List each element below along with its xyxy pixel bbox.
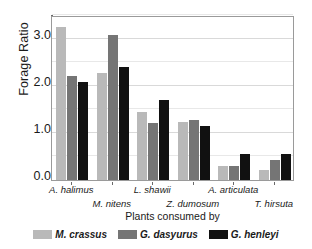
y-tick-label: 2.0 (17, 77, 51, 87)
x-tick-label: A. articulata (208, 184, 258, 195)
legend-swatch-icon (209, 230, 228, 239)
chart-legend: M. crassusG. dasyurusG. henleyi (0, 229, 312, 240)
bar (189, 120, 199, 180)
bar (108, 35, 118, 180)
x-axis-title: Plants consumed by (51, 210, 294, 222)
legend-item: G. dasyurus (118, 229, 198, 240)
bar-group (93, 17, 134, 180)
x-tick-mark (112, 182, 113, 185)
y-tick-label: 1.0 (17, 124, 51, 134)
bar (178, 122, 188, 180)
x-tick-label: M. nitens (92, 198, 131, 209)
x-tick-label: A. halimus (49, 184, 93, 195)
legend-swatch-icon (118, 230, 137, 239)
bar (119, 67, 129, 180)
bar (56, 27, 66, 180)
bar (148, 123, 158, 181)
bar (78, 82, 88, 180)
forage-ratio-bar-chart: Forage Ratio 0.01.02.03.0 A. halimusM. n… (0, 0, 312, 249)
plot-area (51, 16, 294, 181)
bar (259, 170, 269, 180)
y-tick-label: 0.0 (17, 171, 51, 181)
legend-label: M. crassus (55, 229, 107, 240)
legend-label: G. henleyi (231, 229, 279, 240)
x-axis-tick-labels: A. halimusM. nitensL. shawiiZ. dumosumA.… (51, 182, 294, 212)
bar-group (133, 17, 174, 180)
bar-group (214, 17, 255, 180)
x-tick-label: L. shawii (134, 184, 171, 195)
bar (229, 166, 239, 180)
bar-group (52, 17, 93, 180)
legend-swatch-icon (33, 230, 52, 239)
bar (218, 166, 228, 180)
bar (240, 154, 250, 180)
x-tick-label: Z. dumosum (166, 198, 219, 209)
legend-item: G. henleyi (209, 229, 279, 240)
y-tick-label: 3.0 (17, 30, 51, 40)
bar-group (255, 17, 296, 180)
x-tick-mark (193, 182, 194, 185)
bar (97, 73, 107, 180)
y-axis-ticks: 0.01.02.03.0 (0, 16, 51, 181)
gridline-minor (52, 14, 293, 15)
bar (200, 126, 210, 180)
legend-item: M. crassus (33, 229, 107, 240)
x-tick-mark (274, 182, 275, 185)
bar (159, 100, 169, 180)
bar (270, 160, 280, 180)
legend-label: G. dasyurus (140, 229, 198, 240)
bar-group (174, 17, 215, 180)
bar (281, 154, 291, 180)
x-tick-label: T. hirsuta (254, 198, 293, 209)
bar (137, 112, 147, 180)
bar (67, 76, 77, 180)
bar-series-container (52, 17, 293, 180)
